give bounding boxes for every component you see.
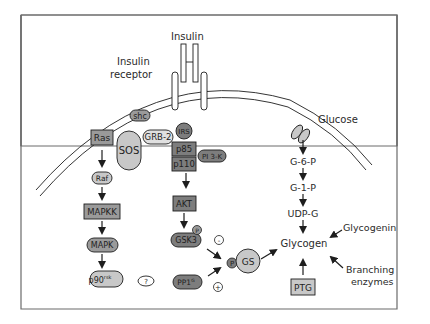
insulin-label: Insulin xyxy=(171,31,204,42)
insulin-receptor-label: Insulin xyxy=(117,56,150,67)
arrow-gsk3-gs xyxy=(207,249,220,258)
cell-membrane-inner xyxy=(40,98,366,196)
g6p-label: G-6-P xyxy=(290,156,316,167)
irs-label: IRS xyxy=(178,128,190,136)
pi3k-label: PI 3-K xyxy=(202,153,222,161)
insulin-receptor-label-2: receptor xyxy=(110,69,153,80)
udpg-label: UDP-G xyxy=(288,208,319,219)
diagram-frame xyxy=(21,15,397,146)
unknown-label: ? xyxy=(144,278,148,286)
branching-enzymes-label: Branching xyxy=(346,264,394,275)
pathway-diagram: Insulin Insulin receptor Glucose shc Ras… xyxy=(0,0,430,324)
p85-label: p85 xyxy=(176,144,192,154)
shc-label: shc xyxy=(133,112,147,121)
p90rsk-superscript: rsk xyxy=(104,274,112,280)
glucose-label: Glucose xyxy=(318,114,358,125)
gsk3-phospho-label: P xyxy=(195,227,199,234)
arrow-gs-glycogen xyxy=(261,250,276,259)
glycogen-label: Glycogen xyxy=(281,238,328,249)
ptg-label: PTG xyxy=(294,283,312,293)
g1p-label: G-1-P xyxy=(290,182,316,193)
diagram-frame xyxy=(21,15,397,146)
akt-label: AKT xyxy=(176,199,193,209)
mapkk-label: MAPKK xyxy=(87,207,117,217)
frame-border xyxy=(21,15,397,146)
glycogenin-label: Glycogenin xyxy=(343,222,396,233)
p110-label: p110 xyxy=(173,159,195,169)
mapk-label: MAPK xyxy=(91,241,114,250)
ras-label: Ras xyxy=(94,133,111,143)
activation-sign-label: + xyxy=(215,284,221,292)
raf-label: Raf xyxy=(96,174,109,183)
insulin-chain-right xyxy=(193,44,198,82)
gsk3-label: GSK3 xyxy=(175,236,197,245)
grb2-label: GRB-2 xyxy=(145,132,172,142)
pp1g-superscript: G xyxy=(191,278,195,283)
gs-label: GS xyxy=(242,257,255,267)
arrow-branching-glycogen xyxy=(331,257,343,268)
insulin-chain-left xyxy=(181,44,186,82)
branching-enzymes-label-2: enzymes xyxy=(351,276,394,287)
arrow-pp1-gs xyxy=(208,268,220,276)
sos-label: SOS xyxy=(119,145,140,156)
arrow-glycogenin-glycogen xyxy=(331,230,342,237)
gs-phospho-label: P xyxy=(230,260,234,268)
receptor-right xyxy=(201,72,207,110)
receptor-left xyxy=(172,72,178,110)
